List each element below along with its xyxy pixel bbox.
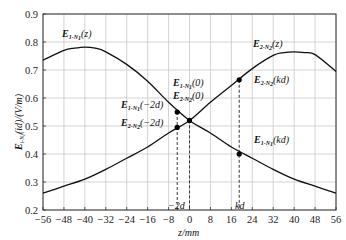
marker-point	[175, 125, 180, 130]
x-tick-label: 32	[268, 214, 279, 225]
x-tick-label: 8	[208, 214, 213, 225]
e1-kd-label: E1-N1(kd)	[253, 134, 290, 147]
y-tick-label: 0.8	[25, 37, 38, 48]
x-axis-label: z/mm	[177, 227, 199, 238]
neg2d-axis-label: −2d	[168, 200, 186, 211]
marker-point	[187, 118, 192, 123]
e1-zero-label: E1-N1(0)	[172, 77, 204, 90]
x-tick-label: −8	[163, 214, 174, 225]
e2-zero-label: E2-N2(0)	[172, 90, 204, 103]
y-tick-label: 0.4	[25, 149, 39, 160]
x-tick-label: −24	[119, 214, 136, 225]
curve2-label: E2-N2(z)	[252, 38, 283, 51]
x-tick-label: 56	[331, 214, 342, 225]
e2-kd-label: E2-N2(kd)	[253, 74, 290, 87]
x-tick-label: −56	[35, 214, 51, 225]
x-tick-label: −16	[139, 214, 155, 225]
marker-point	[237, 151, 242, 156]
y-tick-label: 0.3	[25, 177, 38, 188]
y-tick-label: 0.9	[25, 9, 38, 20]
y-tick-label: 0.7	[25, 65, 38, 76]
x-tick-label: −32	[98, 214, 114, 225]
marker-point	[175, 109, 180, 114]
curve1-label: E1-N1(z)	[61, 28, 92, 41]
y-tick-label: 0.2	[25, 205, 38, 216]
x-tick-label: 24	[247, 214, 258, 225]
y-tick-label: 0.6	[25, 93, 38, 104]
x-tick-label: −48	[56, 214, 72, 225]
marker-point	[237, 77, 242, 82]
x-tick-label: 48	[310, 214, 321, 225]
x-tick-label: 16	[226, 214, 237, 225]
x-tick-label: 0	[187, 214, 192, 225]
x-tick-label: −40	[77, 214, 93, 225]
x-tick-label: 40	[289, 214, 300, 225]
y-tick-label: 0.5	[25, 121, 38, 132]
kd-axis-label: kd	[235, 200, 245, 211]
line-chart: −56−48−40−32−24−16−808162432404856 0.20.…	[0, 0, 346, 240]
